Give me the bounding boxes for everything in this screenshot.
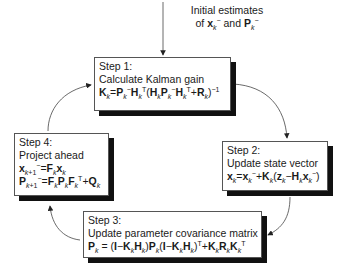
arrow-step1-to-step2 [233, 84, 287, 138]
step4-description: Project ahead [19, 149, 104, 162]
initial-estimates-label: Initial estimates of xk− and Pk− [172, 4, 282, 30]
initial-line2: of xk− and Pk− [172, 17, 282, 30]
step2-title: Step 2: [227, 144, 323, 157]
step4-title: Step 4: [19, 136, 104, 149]
step1-title: Step 1: [99, 60, 226, 73]
step4-equation-2: Pk+1−=FkPkFkT+Qk [19, 175, 104, 188]
initial-line1: Initial estimates [172, 4, 282, 17]
step1-equation: Kk=Pk−HkT(HkPk−HkT+Rk)−1 [99, 86, 226, 99]
step2-description: Update state vector [227, 157, 323, 170]
step3-equation: Pk = (I−KkHk)Pk(I−KkHk)T+KkRkKkT [88, 240, 257, 253]
step3-title: Step 3: [88, 214, 257, 227]
arrow-step3-to-step4 [50, 206, 80, 240]
arrow-step2-to-step3 [268, 197, 290, 235]
step2-equation: xk=xk−+Kk(zk−Hkxk−) [227, 170, 323, 183]
step1-description: Calculate Kalman gain [99, 73, 226, 86]
step4-equation-1: xk+1−=Fkxk [19, 162, 104, 175]
step2-box: Step 2: Update state vector xk=xk−+Kk(zk… [222, 141, 328, 191]
arrow-step4-to-step1 [48, 85, 91, 131]
step4-box: Step 4: Project ahead xk+1−=Fkxk Pk+1−=F… [14, 133, 109, 196]
step3-box: Step 3: Update parameter covariance matr… [83, 211, 262, 258]
step3-description: Update parameter covariance matrix [88, 227, 257, 240]
step1-box: Step 1: Calculate Kalman gain Kk=Pk−HkT(… [94, 57, 231, 111]
